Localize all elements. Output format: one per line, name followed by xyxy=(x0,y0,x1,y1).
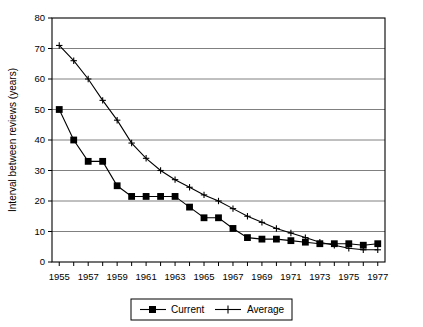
x-tick-label: 1969 xyxy=(251,271,272,282)
filled-square-marker xyxy=(114,182,121,189)
filled-square-marker xyxy=(244,234,251,241)
legend-label-average: Average xyxy=(247,304,285,315)
filled-square-marker xyxy=(186,204,193,211)
y-tick-label: 60 xyxy=(34,73,45,84)
chart-canvas: 01020304050607080 1955195719591961196319… xyxy=(0,0,423,327)
x-tick-label: 1977 xyxy=(367,271,388,282)
y-tick-label: 50 xyxy=(34,104,45,115)
x-tick-label: 1955 xyxy=(49,271,70,282)
chart-legend: Current Average xyxy=(131,299,292,320)
x-tick-label: 1967 xyxy=(222,271,243,282)
x-tick-label: 1975 xyxy=(338,271,359,282)
y-tick-label: 30 xyxy=(34,165,45,176)
legend-label-current: Current xyxy=(171,304,205,315)
filled-square-marker xyxy=(70,137,77,144)
filled-square-marker xyxy=(85,158,92,165)
filled-square-marker xyxy=(143,193,150,200)
x-tick-label: 1959 xyxy=(107,271,128,282)
x-axis-tick-labels: 1955195719591961196319651967196919711973… xyxy=(49,271,389,282)
y-tick-label: 0 xyxy=(40,256,45,267)
filled-square-marker xyxy=(287,237,294,244)
filled-square-marker xyxy=(99,158,106,165)
y-tick-label: 20 xyxy=(34,195,45,206)
x-tick-label: 1973 xyxy=(309,271,330,282)
filled-square-marker xyxy=(215,214,222,221)
filled-square-marker xyxy=(128,193,135,200)
x-tick-label: 1971 xyxy=(280,271,301,282)
x-tick-label: 1957 xyxy=(78,271,99,282)
filled-square-marker xyxy=(172,193,179,200)
x-tick-label: 1963 xyxy=(164,271,185,282)
chart-container: 01020304050607080 1955195719591961196319… xyxy=(0,0,423,327)
filled-square-marker xyxy=(157,193,164,200)
filled-square-icon xyxy=(149,306,156,313)
filled-square-marker xyxy=(374,240,381,247)
y-tick-label: 10 xyxy=(34,226,45,237)
y-tick-label: 80 xyxy=(34,12,45,23)
x-tick-label: 1965 xyxy=(193,271,214,282)
filled-square-marker xyxy=(230,225,237,232)
y-tick-label: 40 xyxy=(34,134,45,145)
filled-square-marker xyxy=(259,236,266,243)
y-axis-title: Interval between reviews (years) xyxy=(7,68,18,212)
y-axis-ticks: 01020304050607080 xyxy=(34,12,52,267)
filled-square-marker xyxy=(56,106,63,113)
y-tick-label: 70 xyxy=(34,43,45,54)
filled-square-marker xyxy=(273,236,280,243)
x-axis-ticks xyxy=(59,262,378,266)
filled-square-marker xyxy=(201,214,208,221)
x-tick-label: 1961 xyxy=(136,271,157,282)
